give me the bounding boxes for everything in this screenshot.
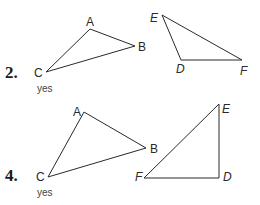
answer-text: yes — [37, 187, 53, 198]
vertex-label-e: E — [150, 11, 159, 25]
vertex-label-a: A — [73, 105, 81, 119]
vertex-label-b: B — [150, 142, 158, 156]
triangle-def-shape — [162, 15, 242, 60]
vertex-label-d: D — [223, 170, 232, 184]
vertex-label-a: A — [86, 15, 94, 29]
vertex-label-c: C — [34, 66, 43, 80]
triangle-abc: A B C — [34, 15, 146, 80]
problem-4: 4. A B C yes E F D — [5, 102, 232, 198]
triangle-def: E D F — [150, 11, 248, 78]
vertex-label-d: D — [176, 62, 185, 76]
vertex-label-f: F — [135, 170, 143, 184]
vertex-label-e: E — [222, 102, 231, 116]
problem-number: 4. — [5, 166, 18, 185]
problem-2: 2. A B C yes E D F — [5, 11, 248, 94]
vertex-label-b: B — [138, 40, 146, 54]
vertex-label-f: F — [240, 64, 248, 78]
exercise-figure: 2. A B C yes E D F 4. A B C yes E F D — [0, 0, 260, 205]
vertex-label-c: C — [36, 170, 45, 184]
triangle-efd-shape — [144, 104, 219, 178]
triangle-abc-shape — [48, 112, 146, 177]
answer-text: yes — [37, 83, 53, 94]
problem-number: 2. — [5, 63, 18, 82]
triangle-abc-shape — [46, 29, 135, 72]
